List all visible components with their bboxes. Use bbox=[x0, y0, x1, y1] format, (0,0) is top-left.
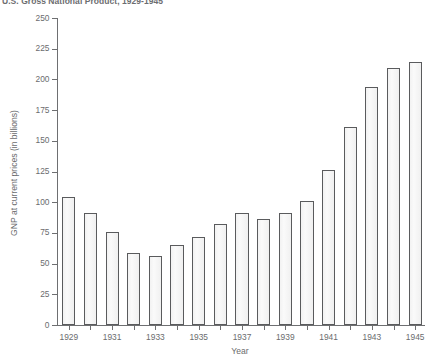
y-tick: 50 bbox=[52, 264, 57, 265]
y-tick-label: 250 bbox=[36, 13, 50, 23]
y-tick: 100 bbox=[52, 202, 57, 203]
y-tick-label: 225 bbox=[36, 43, 50, 53]
x-tick bbox=[329, 326, 330, 330]
x-tick bbox=[264, 326, 265, 330]
bar bbox=[149, 256, 162, 325]
y-tick-label: 150 bbox=[36, 135, 50, 145]
x-tick bbox=[220, 326, 221, 330]
x-tick-label: 1933 bbox=[146, 332, 165, 342]
y-tick-label: 50 bbox=[40, 258, 49, 268]
bar bbox=[106, 232, 119, 325]
y-tick-label: 75 bbox=[40, 227, 49, 237]
x-tick bbox=[242, 326, 243, 330]
y-tick: 75 bbox=[52, 233, 57, 234]
x-tick-label: 1945 bbox=[406, 332, 425, 342]
y-tick: 175 bbox=[52, 110, 57, 111]
bar bbox=[214, 224, 227, 325]
x-tick-label: 1937 bbox=[233, 332, 252, 342]
bar bbox=[322, 170, 335, 325]
y-tick-label: 25 bbox=[40, 289, 49, 299]
x-tick bbox=[350, 326, 351, 330]
x-tick-label: 1931 bbox=[103, 332, 122, 342]
x-tick bbox=[134, 326, 135, 330]
x-tick bbox=[415, 326, 416, 330]
y-tick: 0 bbox=[52, 325, 57, 326]
x-tick-label: 1943 bbox=[363, 332, 382, 342]
y-tick-label: 125 bbox=[36, 166, 50, 176]
x-tick-label: 1941 bbox=[319, 332, 338, 342]
bar bbox=[84, 213, 97, 325]
bar bbox=[387, 68, 400, 325]
y-tick: 150 bbox=[52, 141, 57, 142]
bar bbox=[62, 197, 75, 325]
x-tick bbox=[112, 326, 113, 330]
y-tick-label: 200 bbox=[36, 74, 50, 84]
y-tick: 250 bbox=[52, 18, 57, 19]
y-axis-line bbox=[57, 18, 58, 326]
y-tick: 225 bbox=[52, 49, 57, 50]
x-tick-label: 1935 bbox=[189, 332, 208, 342]
x-tick bbox=[307, 326, 308, 330]
x-tick bbox=[69, 326, 70, 330]
x-tick bbox=[177, 326, 178, 330]
y-tick-label: 0 bbox=[45, 320, 50, 330]
x-tick bbox=[155, 326, 156, 330]
gnp-bar-chart: U.S. Gross National Product, 1929-1945 G… bbox=[0, 0, 430, 363]
bar bbox=[257, 219, 270, 325]
y-axis-title: GNP at current prices (in billions) bbox=[9, 78, 19, 268]
x-tick bbox=[372, 326, 373, 330]
y-tick: 200 bbox=[52, 79, 57, 80]
bar bbox=[235, 213, 248, 325]
bar bbox=[127, 253, 140, 325]
x-tick bbox=[285, 326, 286, 330]
y-tick-label: 100 bbox=[36, 197, 50, 207]
bar bbox=[365, 87, 378, 325]
x-tick bbox=[90, 326, 91, 330]
bar bbox=[170, 245, 183, 325]
plot-area: 0255075100125150175200225250 19291931193… bbox=[57, 18, 425, 325]
x-tick bbox=[394, 326, 395, 330]
bar bbox=[300, 201, 313, 325]
chart-title: U.S. Gross National Product, 1929-1945 bbox=[2, 0, 163, 6]
bar bbox=[192, 237, 205, 325]
bar bbox=[279, 213, 292, 325]
x-tick-label: 1929 bbox=[59, 332, 78, 342]
y-tick-label: 175 bbox=[36, 105, 50, 115]
x-tick-label: 1939 bbox=[276, 332, 295, 342]
bar bbox=[344, 127, 357, 325]
y-tick: 25 bbox=[52, 294, 57, 295]
x-tick bbox=[199, 326, 200, 330]
y-tick: 125 bbox=[52, 172, 57, 173]
x-axis-title: Year bbox=[55, 346, 425, 356]
bar bbox=[409, 62, 422, 325]
